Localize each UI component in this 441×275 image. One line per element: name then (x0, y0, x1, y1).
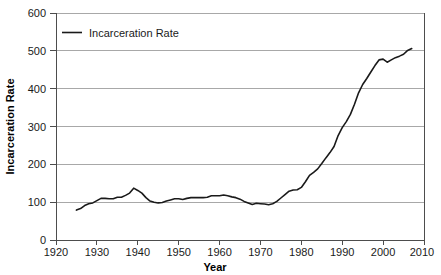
x-tick-label-1990: 1990 (330, 246, 354, 258)
x-tick-label-2000: 2000 (371, 246, 395, 258)
x-tick-label-1970: 1970 (248, 246, 272, 258)
chart-figure: 600 500 400 300 200 100 0 1920 1930 1940… (0, 0, 441, 275)
y-tick-label-300: 300 (28, 121, 46, 133)
y-tick-label-100: 100 (28, 196, 46, 208)
y-tick-label-500: 500 (28, 45, 46, 57)
y-tick-label-0: 0 (40, 234, 46, 246)
x-tick-label-1930: 1930 (85, 246, 109, 258)
legend-label-incarceration-rate: Incarceration Rate (89, 27, 179, 39)
line-chart: 600 500 400 300 200 100 0 1920 1930 1940… (0, 0, 441, 275)
x-tick-label-1940: 1940 (126, 246, 150, 258)
y-tick-label-200: 200 (28, 158, 46, 170)
x-tick-label-1950: 1950 (166, 246, 190, 258)
x-tick-label-2010: 2010 (410, 246, 434, 258)
x-tick-label-1920: 1920 (44, 246, 68, 258)
x-tick-label-1960: 1960 (207, 246, 231, 258)
y-tick-label-600: 600 (28, 7, 46, 19)
y-axis-title: Incarceration Rate (4, 79, 16, 175)
y-tick-label-400: 400 (28, 83, 46, 95)
x-axis-title: Year (203, 261, 227, 273)
x-tick-label-1980: 1980 (289, 246, 313, 258)
chart-background (0, 0, 441, 275)
